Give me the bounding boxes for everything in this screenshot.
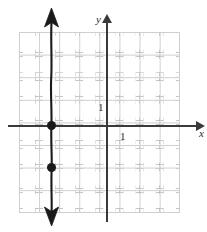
plotted-point (47, 163, 56, 172)
curve-path (51, 22, 52, 212)
plotted-point (47, 121, 56, 130)
graph-figure: y x 1 1 (0, 0, 207, 232)
plotted-curve (0, 0, 207, 232)
